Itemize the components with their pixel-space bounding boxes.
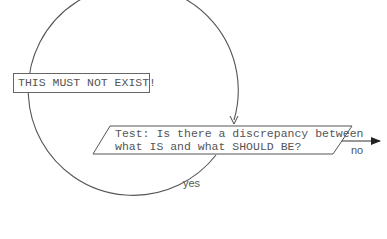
feedback-loop-arc: [28, 0, 238, 195]
diagram-graphics: [0, 0, 387, 239]
decision-text-line1: Test: Is there a discrepancy between: [115, 127, 363, 141]
no-edge-label: no: [351, 143, 363, 157]
yes-edge-label: yes: [183, 176, 200, 190]
decision-text-line2: what IS and what SHOULD BE?: [115, 140, 301, 154]
loop-node-box: THIS MUST NOT EXIST!: [13, 73, 150, 93]
diagram-canvas: THIS MUST NOT EXIST! Test: Is there a di…: [0, 0, 387, 239]
loop-node-label: THIS MUST NOT EXIST!: [18, 76, 156, 90]
